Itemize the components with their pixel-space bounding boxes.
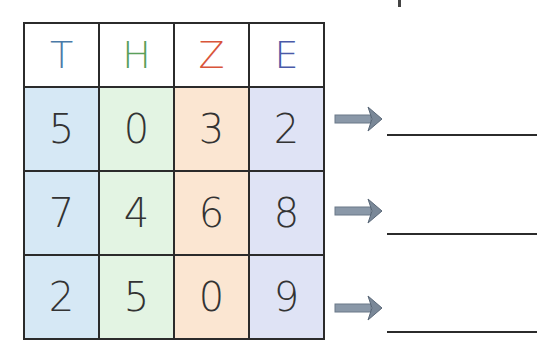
header-tens: Z (174, 23, 249, 87)
answer-blank-1[interactable] (387, 134, 537, 136)
arrow-right-icon (334, 198, 384, 224)
arrow-right-icon (334, 295, 384, 321)
cell-tens: 3 (174, 87, 249, 171)
arrow-right-icon (334, 106, 384, 132)
cell-tens: 0 (174, 255, 249, 339)
cell-ones: 9 (249, 255, 324, 339)
cell-ones: 2 (249, 87, 324, 171)
answer-blank-2[interactable] (387, 233, 537, 235)
cell-hundreds: 4 (99, 171, 174, 255)
table-row: 7 4 6 8 (24, 171, 324, 255)
cell-thousands: 5 (24, 87, 99, 171)
cell-thousands: 2 (24, 255, 99, 339)
header-ones: E (249, 23, 324, 87)
cell-tens: 6 (174, 171, 249, 255)
header-thousands: T (24, 23, 99, 87)
cell-ones: 8 (249, 171, 324, 255)
cell-hundreds: 0 (99, 87, 174, 171)
place-value-table: T H Z E 5 0 3 2 7 4 6 8 2 5 0 9 (23, 22, 325, 340)
header-hundreds: H (99, 23, 174, 87)
table-row: 2 5 0 9 (24, 255, 324, 339)
cell-thousands: 7 (24, 171, 99, 255)
answer-blank-3[interactable] (387, 331, 537, 333)
header-row: T H Z E (24, 23, 324, 87)
top-tick-mark (398, 0, 401, 7)
table-row: 5 0 3 2 (24, 87, 324, 171)
cell-hundreds: 5 (99, 255, 174, 339)
